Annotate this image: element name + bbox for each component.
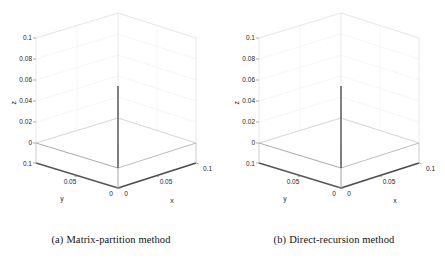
x-tick-0.1: 0.1 [203, 166, 212, 173]
z-tick-0.02: 0.02 [242, 119, 255, 126]
plot-area-b: 0.1 0.08 0.06 0.04 0.02 0 z 0.1 0.05 0 y… [223, 0, 445, 232]
z-tick-0.04: 0.04 [242, 98, 255, 105]
plot-area-a: 0.1 0.08 0.06 0.04 0.02 0 z 0.1 0.05 0 y… [0, 0, 222, 232]
z-tick-0.02: 0.02 [19, 119, 32, 126]
z-tick-0: 0 [28, 140, 32, 147]
caption-text-a: Matrix-partition method [66, 234, 170, 245]
y-tick-0.05: 0.05 [287, 179, 300, 186]
tick-marks [256, 38, 422, 188]
z-axis-label: z [233, 101, 240, 105]
caption-number-b: (b) [274, 234, 287, 245]
z-tick-0.1: 0.1 [246, 35, 255, 42]
z-tick-0.08: 0.08 [19, 56, 32, 63]
z-axis-label: z [10, 101, 17, 105]
z-tick-0.06: 0.06 [242, 77, 255, 84]
floor-plane [36, 118, 196, 168]
x-tick-0.05: 0.05 [383, 179, 396, 186]
caption-number-a: (a) [51, 234, 63, 245]
y-tick-0: 0 [109, 191, 113, 198]
y-tick-0.1: 0.1 [23, 161, 32, 168]
x-tick-0: 0 [124, 191, 128, 198]
y-axis-label: y [283, 195, 287, 202]
back-left-wall-grid [36, 13, 118, 143]
y-tick-0.1: 0.1 [246, 161, 255, 168]
x-tick-0: 0 [347, 191, 351, 198]
z-tick-0.06: 0.06 [19, 77, 32, 84]
tick-marks [33, 38, 199, 188]
x-axis-label: x [393, 197, 397, 204]
y-tick-0: 0 [332, 191, 336, 198]
x-tick-0.1: 0.1 [426, 166, 435, 173]
back-right-wall-grid [118, 13, 196, 143]
caption-text-b: Direct-recursion method [289, 234, 394, 245]
z-tick-0.04: 0.04 [19, 98, 32, 105]
back-left-wall-grid [259, 13, 341, 143]
x-tick-0.05: 0.05 [160, 179, 173, 186]
box-wall-edges [259, 13, 419, 143]
z-tick-0: 0 [251, 140, 255, 147]
y-tick-0.05: 0.05 [64, 179, 77, 186]
panel-caption-a: (a)Matrix-partition method [0, 234, 222, 247]
figure-root: 0.1 0.08 0.06 0.04 0.02 0 z 0.1 0.05 0 y… [0, 0, 445, 263]
z-tick-0.08: 0.08 [242, 56, 255, 63]
x-axis-label: x [170, 197, 174, 204]
box-wall-edges [36, 13, 196, 143]
back-right-wall-grid [341, 13, 419, 143]
panel-direct-recursion: 0.1 0.08 0.06 0.04 0.02 0 z 0.1 0.05 0 y… [223, 0, 445, 263]
floor-plane [259, 118, 419, 168]
panel-caption-b: (b)Direct-recursion method [223, 234, 445, 247]
y-axis-label: y [60, 195, 64, 202]
panel-matrix-partition: 0.1 0.08 0.06 0.04 0.02 0 z 0.1 0.05 0 y… [0, 0, 222, 263]
z-tick-0.1: 0.1 [23, 35, 32, 42]
